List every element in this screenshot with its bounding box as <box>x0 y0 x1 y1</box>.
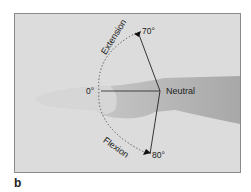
flexion-arrowhead-icon <box>143 149 151 155</box>
figure-frame: Extension 70° 0° Neutral Flexion 80° <box>14 13 241 173</box>
panel-label: b <box>14 176 21 190</box>
hand-shape <box>35 86 117 114</box>
flex-angle-label: 80° <box>152 150 165 160</box>
wrist-rom-illustration <box>15 14 240 172</box>
neutral-label: Neutral <box>166 86 195 96</box>
zero-label: 0° <box>86 86 94 96</box>
ext-angle-label: 70° <box>142 26 155 36</box>
